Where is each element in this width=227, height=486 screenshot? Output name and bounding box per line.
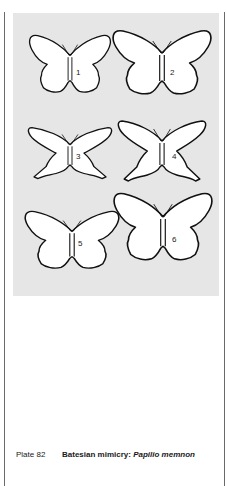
plate-illustration: 1 2 3 4 5 6 — [13, 13, 219, 296]
figure-label-5: 5 — [78, 240, 82, 248]
butterfly-5 — [25, 211, 118, 268]
butterfly-4 — [118, 121, 205, 181]
figure-label-2: 2 — [170, 69, 174, 77]
butterfly-outlines — [13, 13, 219, 296]
butterfly-3 — [28, 128, 111, 179]
figure-label-3: 3 — [76, 153, 80, 161]
plate-title-species: Papilio memnon — [133, 450, 195, 459]
figure-label-4: 4 — [172, 153, 176, 161]
plate-title: Batesian mimicry: Papilio memnon — [62, 450, 212, 460]
butterfly-2 — [113, 31, 211, 94]
plate-title-plain: Batesian mimicry: — [62, 450, 133, 459]
figure-label-6: 6 — [172, 236, 176, 244]
butterfly-6 — [114, 193, 212, 259]
plate-number: Plate 82 — [16, 450, 45, 460]
right-margin-rule — [224, 12, 225, 486]
butterfly-1 — [30, 35, 111, 92]
left-margin-rule — [4, 12, 5, 486]
figure-label-1: 1 — [76, 69, 80, 77]
